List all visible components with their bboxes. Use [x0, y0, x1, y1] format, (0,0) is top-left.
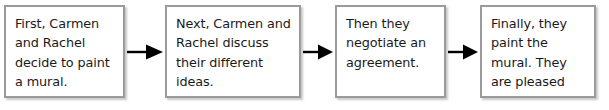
- flowchart-step-2-text: Next, Carmen and Rachel discuss their di…: [176, 14, 291, 92]
- arrow-right-icon: [447, 43, 479, 61]
- flowchart-step-3-text: Then they negotiate an agreement.: [346, 14, 436, 72]
- arrow-right-icon: [302, 43, 334, 61]
- flowchart-diagram: First, Carmen and Rachel decide to paint…: [0, 0, 609, 110]
- flowchart-step-4: Finally, they paint the mural. They are …: [480, 5, 596, 98]
- flowchart-step-1-text: First, Carmen and Rachel decide to paint…: [15, 14, 115, 92]
- flowchart-step-1: First, Carmen and Rachel decide to paint…: [4, 5, 125, 98]
- arrow-right-icon: [126, 43, 164, 61]
- flowchart-step-3: Then they negotiate an agreement.: [335, 5, 446, 98]
- flowchart-step-4-text: Finally, they paint the mural. They are …: [491, 14, 586, 98]
- flowchart-step-2: Next, Carmen and Rachel discuss their di…: [165, 5, 301, 98]
